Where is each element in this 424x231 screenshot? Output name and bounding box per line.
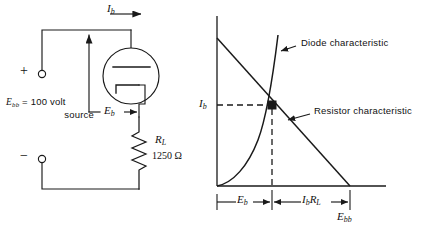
figure-root: Ib + − Ebb = 100 volt source Eb RL 1250 … [0, 0, 424, 231]
load-resistor-value: 1250 Ω [152, 151, 182, 162]
diode-characteristic-curve [217, 35, 278, 186]
wire-bottom-return [42, 163, 139, 189]
dim-label-ibrl: IbRL [302, 194, 321, 208]
load-resistor [132, 117, 146, 189]
x-axis-end-label-ebb: Ebb [337, 211, 352, 225]
positive-terminal-label: + [20, 64, 28, 79]
negative-terminal-label: − [20, 149, 28, 164]
plate-voltage-label: Eb [104, 105, 115, 119]
y-axis-current-label: Ib [199, 98, 207, 112]
dim-label-eb: Eb [237, 194, 248, 208]
diode-characteristic-label: Diode characteristic [301, 38, 388, 48]
source-label-line2: source [6, 109, 94, 121]
source-label: Ebb = 100 volt source [6, 96, 94, 121]
tube-envelope [103, 48, 159, 104]
load-resistor-symbol: RL [155, 134, 166, 148]
resistor-annotation-arrow [288, 114, 310, 120]
negative-terminal [38, 155, 45, 162]
positive-terminal [38, 70, 45, 77]
resistor-characteristic-label: Resistor characteristic [314, 106, 412, 116]
diode-annotation-arrow [281, 46, 296, 51]
circuit-current-label: Ib [107, 3, 115, 17]
operating-point-marker [268, 101, 277, 110]
